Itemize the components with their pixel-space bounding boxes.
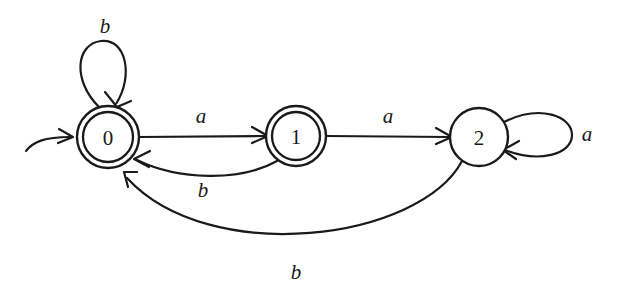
transition-label-0-1-a: a xyxy=(196,104,207,128)
start-arrow-marker xyxy=(26,129,73,151)
transition-label-1-2-a: a xyxy=(383,104,394,128)
transition-label-2-2-a: a xyxy=(582,122,593,146)
state-node-0[interactable]: 0 xyxy=(77,106,139,168)
state-node-2[interactable]: 2 xyxy=(450,108,508,166)
transition-label-1-0-b: b xyxy=(198,178,209,202)
state-0-label: 0 xyxy=(103,126,114,150)
edge-1-2-line xyxy=(326,136,450,137)
transition-0-1-a xyxy=(139,127,268,143)
transition-0-0-b xyxy=(80,41,131,107)
transition-1-2-a xyxy=(326,128,452,144)
edge-1-0-curve xyxy=(137,160,277,176)
self-loop-2-path xyxy=(504,113,572,156)
state-2-label: 2 xyxy=(474,126,485,150)
automaton-diagram: 0 1 2 b a a b b a xyxy=(0,0,620,300)
edge-0-1-line xyxy=(139,136,266,137)
transition-label-2-0-b: b xyxy=(291,260,302,284)
start-arrow-tail xyxy=(26,137,70,151)
state-node-1[interactable]: 1 xyxy=(266,106,326,166)
transition-1-0-b xyxy=(134,151,277,176)
self-loop-0-path xyxy=(80,41,125,107)
transition-label-0-0-b: b xyxy=(100,14,111,38)
transition-2-2-a xyxy=(503,113,572,159)
state-1-label: 1 xyxy=(291,125,302,149)
fsa-canvas: 0 1 2 b a a b b a xyxy=(0,0,620,300)
